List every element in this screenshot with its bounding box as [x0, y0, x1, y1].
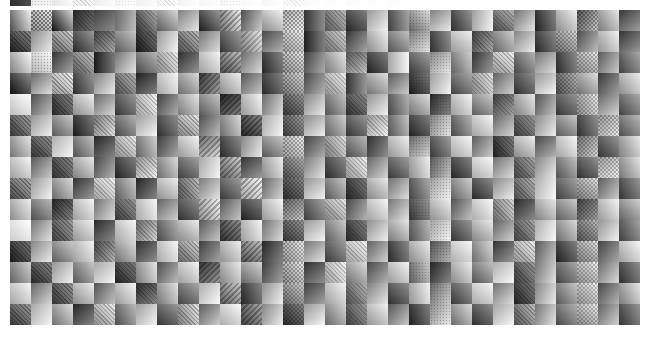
tile-gradient	[115, 241, 136, 262]
texture-tile	[598, 157, 619, 178]
texture-tile	[430, 283, 451, 304]
texture-tile	[493, 241, 514, 262]
texture-tile	[178, 31, 199, 52]
texture-tile	[556, 283, 577, 304]
clipped-texture-tile	[556, 0, 577, 6]
tile-gradient	[220, 136, 241, 157]
texture-tile	[262, 136, 283, 157]
texture-tile	[451, 115, 472, 136]
tile-pattern-check	[577, 10, 598, 31]
texture-tile	[409, 199, 430, 220]
texture-tile	[598, 52, 619, 73]
texture-tile	[115, 241, 136, 262]
texture-tile	[73, 10, 94, 31]
texture-tile	[157, 262, 178, 283]
tile-pattern-diag	[514, 157, 535, 178]
texture-tile	[199, 178, 220, 199]
tile-gradient	[115, 157, 136, 178]
texture-tile	[157, 31, 178, 52]
texture-tile	[304, 52, 325, 73]
texture-tile	[451, 136, 472, 157]
texture-tile	[283, 283, 304, 304]
texture-tile	[304, 220, 325, 241]
tile-gradient	[367, 157, 388, 178]
tile-gradient	[388, 199, 409, 220]
texture-tile	[472, 31, 493, 52]
tile-pattern-dot	[430, 115, 451, 136]
texture-tile	[472, 136, 493, 157]
tile-gradient	[304, 10, 325, 31]
texture-tile	[31, 283, 52, 304]
texture-tile	[31, 304, 52, 325]
tile-gradient	[115, 115, 136, 136]
clipped-texture-tile	[94, 0, 115, 6]
tile-gradient	[199, 241, 220, 262]
clipped-texture-tile	[409, 0, 430, 6]
tile-gradient	[451, 136, 472, 157]
texture-tile	[115, 31, 136, 52]
texture-tile	[535, 94, 556, 115]
texture-tile	[409, 220, 430, 241]
texture-tile	[409, 304, 430, 325]
tile-gradient	[367, 94, 388, 115]
tile-gradient	[241, 52, 262, 73]
texture-tile	[472, 241, 493, 262]
texture-tile	[115, 157, 136, 178]
tile-pattern-check	[577, 220, 598, 241]
tile-gradient	[157, 178, 178, 199]
texture-grid-figure	[0, 0, 650, 340]
tile-gradient	[472, 304, 493, 325]
texture-tile	[52, 157, 73, 178]
tile-gradient	[325, 304, 346, 325]
texture-tile	[409, 73, 430, 94]
texture-tile	[157, 220, 178, 241]
tile-pattern-dot	[430, 157, 451, 178]
tile-gradient	[430, 73, 451, 94]
tile-gradient	[409, 220, 430, 241]
texture-tile	[31, 73, 52, 94]
tile-gradient	[535, 262, 556, 283]
texture-tile	[451, 262, 472, 283]
texture-tile	[388, 304, 409, 325]
texture-tile	[367, 283, 388, 304]
tile-gradient	[73, 262, 94, 283]
tile-pattern-check	[577, 304, 598, 325]
texture-tile	[73, 262, 94, 283]
texture-tile	[94, 73, 115, 94]
texture-tile	[430, 115, 451, 136]
texture-tile	[451, 241, 472, 262]
texture-tile	[598, 283, 619, 304]
tile-gradient	[451, 241, 472, 262]
texture-tile	[31, 199, 52, 220]
tile-gradient	[598, 52, 619, 73]
texture-tile	[388, 136, 409, 157]
tile-gradient	[136, 178, 157, 199]
tile-pattern-check	[577, 94, 598, 115]
texture-tile	[241, 94, 262, 115]
texture-tile	[52, 52, 73, 73]
texture-tile	[115, 304, 136, 325]
tile-gradient	[115, 10, 136, 31]
texture-tile	[220, 220, 241, 241]
texture-tile	[325, 262, 346, 283]
texture-tile	[325, 283, 346, 304]
tile-gradient	[220, 241, 241, 262]
texture-tile	[346, 241, 367, 262]
texture-tile	[535, 157, 556, 178]
tile-gradient	[556, 283, 577, 304]
tile-gradient	[388, 304, 409, 325]
tile-gradient	[619, 0, 640, 6]
tile-gradient	[598, 178, 619, 199]
tile-gradient	[493, 241, 514, 262]
tile-pattern-diag	[136, 10, 157, 31]
tile-gradient	[619, 94, 640, 115]
texture-tile	[304, 31, 325, 52]
tile-pattern-diag	[52, 157, 73, 178]
texture-tile	[136, 10, 157, 31]
tile-pattern-diag	[31, 136, 52, 157]
tile-gradient	[262, 94, 283, 115]
tile-gradient	[535, 136, 556, 157]
tile-gradient	[220, 31, 241, 52]
texture-tile	[367, 304, 388, 325]
texture-tile	[367, 241, 388, 262]
